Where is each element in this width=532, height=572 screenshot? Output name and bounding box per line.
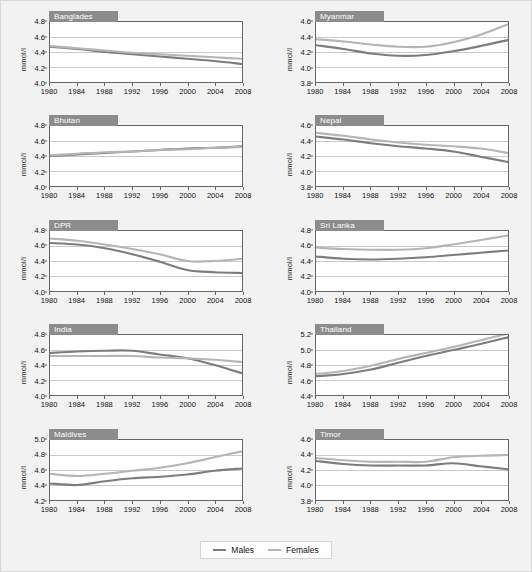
x-tick-label: 1988 (362, 400, 379, 409)
x-tick-mark (315, 83, 316, 86)
x-tick-mark (343, 396, 344, 399)
y-tick-mark (44, 67, 47, 68)
x-tick-label: 1988 (362, 505, 379, 514)
y-tick-mark (310, 83, 313, 84)
x-tick-mark (481, 187, 482, 190)
x-tick-mark (188, 396, 189, 399)
y-tick-mark (44, 276, 47, 277)
y-tick-mark (44, 291, 47, 292)
y-tick-mark (44, 469, 47, 470)
y-tick-mark (44, 334, 47, 335)
x-tick-mark (426, 292, 427, 295)
plot-frame (49, 230, 243, 292)
y-tick-mark (310, 140, 313, 141)
x-tick-mark (104, 396, 105, 399)
x-tick-label: 1992 (124, 296, 141, 305)
y-tick-mark (310, 334, 313, 335)
x-tick-label: 1980 (307, 400, 324, 409)
y-axis-label: mmol/l (285, 343, 294, 403)
panel-title: Sri Lanka (315, 220, 384, 231)
x-tick-mark (49, 83, 50, 86)
y-tick-mark (44, 21, 47, 22)
x-tick-label: 1996 (152, 505, 169, 514)
legend-label-females: Females (286, 545, 319, 555)
x-tick-mark (132, 396, 133, 399)
panel-thailand: Thailandmmol/l4.44.64.85.05.219801984198… (267, 322, 532, 426)
legend-item-males: Males (213, 545, 254, 555)
x-tick-label: 2008 (501, 400, 518, 409)
x-tick-mark (370, 83, 371, 86)
y-axis-label: mmol/l (19, 134, 28, 194)
plot-frame (49, 21, 243, 83)
x-tick-mark (77, 501, 78, 504)
x-tick-label: 1988 (96, 296, 113, 305)
x-tick-label: 2008 (235, 505, 252, 514)
y-tick-mark (44, 245, 47, 246)
x-tick-label: 1992 (390, 191, 407, 200)
plot-area: 3.84.04.24.44.61980198419881992199620002… (315, 439, 509, 501)
series-lines (316, 22, 508, 82)
y-tick-mark (310, 36, 313, 37)
x-tick-mark (370, 396, 371, 399)
x-tick-mark (426, 501, 427, 504)
x-tick-mark (160, 292, 161, 295)
series-lines (50, 126, 242, 186)
panel-title: Myanmar (315, 11, 384, 22)
series-line-females (50, 356, 242, 362)
x-tick-mark (77, 187, 78, 190)
y-tick-mark (44, 83, 47, 84)
x-tick-label: 2000 (445, 296, 462, 305)
y-tick-mark (44, 187, 47, 188)
y-axis-label: mmol/l (285, 447, 294, 507)
x-tick-label: 2008 (235, 296, 252, 305)
x-tick-label: 2000 (179, 400, 196, 409)
y-tick-mark (310, 291, 313, 292)
x-tick-mark (509, 83, 510, 86)
x-tick-label: 1996 (418, 296, 435, 305)
y-tick-mark (310, 380, 313, 381)
legend-label-males: Males (231, 545, 254, 555)
y-tick-mark (44, 396, 47, 397)
panel-banglades: Bangladesmmol/l4.04.24.44.64.81980198419… (1, 9, 267, 113)
x-tick-mark (509, 501, 510, 504)
x-tick-mark (426, 83, 427, 86)
y-tick-mark (310, 500, 313, 501)
x-tick-mark (49, 501, 50, 504)
x-tick-label: 1988 (362, 87, 379, 96)
x-tick-label: 1992 (390, 400, 407, 409)
series-line-females (316, 235, 508, 249)
x-tick-label: 2000 (445, 87, 462, 96)
x-tick-label: 1984 (334, 87, 351, 96)
x-tick-mark (370, 292, 371, 295)
y-axis-label: mmol/l (285, 30, 294, 90)
x-tick-mark (188, 292, 189, 295)
x-tick-label: 1996 (418, 505, 435, 514)
y-tick-mark (310, 485, 313, 486)
x-tick-label: 1992 (390, 87, 407, 96)
x-tick-mark (215, 187, 216, 190)
x-tick-mark (481, 396, 482, 399)
x-axis-ticks: 19801984198819921996200020042008 (315, 292, 509, 308)
x-tick-label: 1984 (68, 191, 85, 200)
x-tick-mark (398, 187, 399, 190)
x-tick-label: 1992 (124, 505, 141, 514)
y-tick-mark (310, 156, 313, 157)
x-tick-label: 1984 (334, 400, 351, 409)
x-tick-label: 1980 (307, 296, 324, 305)
y-tick-mark (44, 485, 47, 486)
x-tick-label: 2004 (207, 87, 224, 96)
x-tick-label: 1988 (96, 191, 113, 200)
x-tick-mark (454, 501, 455, 504)
x-tick-label: 1996 (418, 400, 435, 409)
y-tick-mark (44, 349, 47, 350)
panel-sri-lanka: Sri Lankammol/l4.04.24.44.64.81980198419… (267, 218, 532, 322)
x-tick-label: 2000 (445, 400, 462, 409)
x-tick-mark (509, 187, 510, 190)
series-lines (316, 335, 508, 395)
x-tick-mark (188, 83, 189, 86)
x-tick-mark (160, 501, 161, 504)
x-tick-mark (509, 292, 510, 295)
x-tick-label: 1984 (334, 191, 351, 200)
x-tick-mark (188, 187, 189, 190)
x-tick-label: 2000 (179, 296, 196, 305)
